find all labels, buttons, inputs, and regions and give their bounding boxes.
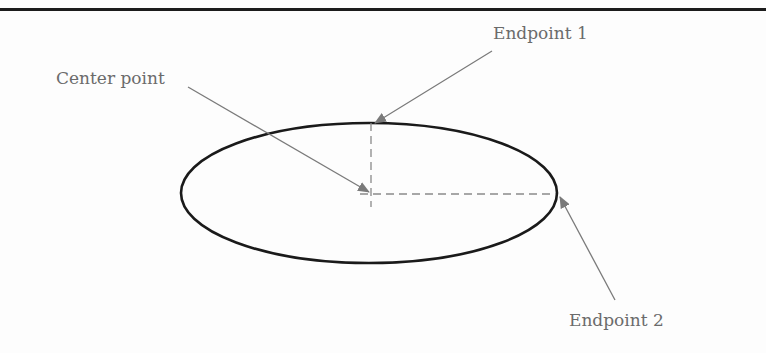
- endpoint-1-label: Endpoint 1: [493, 25, 588, 42]
- ellipse-shape: [181, 123, 557, 263]
- endpoint-1-arrow: [375, 51, 492, 123]
- center-point-arrow: [188, 87, 369, 192]
- endpoint-2-label: Endpoint 2: [569, 312, 664, 329]
- center-point-label: Center point: [56, 70, 165, 87]
- endpoint-2-arrow: [560, 197, 615, 300]
- diagram-canvas: Center point Endpoint 1 Endpoint 2: [0, 0, 766, 353]
- ellipse-diagram: [0, 0, 766, 353]
